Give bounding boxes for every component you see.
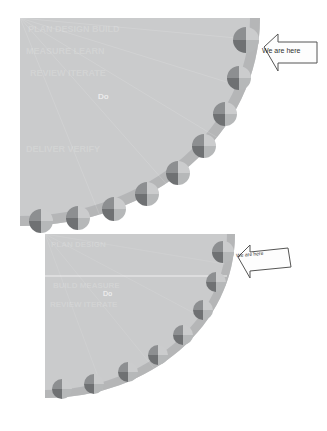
milestone-marker[interactable] — [118, 362, 138, 382]
milestone-marker[interactable] — [212, 241, 234, 263]
milestone-marker[interactable] — [166, 161, 190, 185]
milestone-marker[interactable] — [102, 197, 126, 221]
callout-arrow-shape — [238, 245, 291, 278]
milestone-marker[interactable] — [193, 300, 213, 320]
disc-small-graphic — [45, 234, 295, 406]
milestone-marker[interactable] — [66, 206, 90, 230]
callout-arrow-small[interactable] — [238, 245, 291, 278]
roadmap-quarter-disc-large[interactable]: Do We are here PLAN DESIGN BUILD MEASURE… — [20, 18, 260, 226]
milestone-marker[interactable] — [173, 325, 193, 345]
milestone-marker[interactable] — [135, 182, 159, 206]
milestone-marker[interactable] — [29, 209, 53, 233]
milestone-marker[interactable] — [52, 379, 72, 399]
milestone-marker[interactable] — [148, 345, 168, 365]
disc-large-graphic — [20, 18, 320, 233]
milestone-marker[interactable] — [233, 27, 259, 53]
diagram-canvas: Do We are here PLAN DESIGN BUILD MEASURE… — [0, 0, 327, 431]
roadmap-quarter-disc-small[interactable]: Do We are here PLAN DESIGN BUILD MEASURE… — [45, 234, 235, 398]
milestone-marker[interactable] — [206, 272, 226, 292]
callout-arrow-large[interactable] — [264, 34, 317, 71]
milestone-marker[interactable] — [84, 374, 104, 394]
milestone-marker[interactable] — [213, 102, 237, 126]
callout-arrow-shape — [264, 34, 317, 71]
milestone-marker[interactable] — [192, 134, 216, 158]
milestone-marker[interactable] — [227, 66, 251, 90]
